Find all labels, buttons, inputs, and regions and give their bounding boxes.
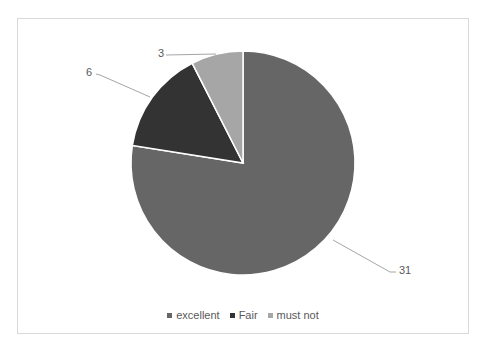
legend-item-excellent: excellent (167, 309, 219, 321)
leader-line-fair (96, 74, 150, 97)
legend-swatch-excellent (167, 313, 172, 318)
legend-swatch-fair (230, 313, 235, 318)
legend-label-must-not: must not (277, 309, 319, 321)
legend-label-fair: Fair (239, 309, 258, 321)
chart-legend: excellent Fair must not (0, 309, 486, 321)
legend-swatch-must-not (268, 313, 273, 318)
legend-item-must-not: must not (268, 309, 319, 321)
leader-line-must-not (166, 54, 216, 55)
legend-label-excellent: excellent (176, 309, 219, 321)
pie-chart: 31 6 3 (0, 0, 486, 347)
leader-line-excellent (333, 240, 396, 272)
pie-slices (131, 51, 355, 275)
legend-item-fair: Fair (230, 309, 258, 321)
data-label-must-not: 3 (158, 47, 164, 59)
data-label-excellent: 31 (399, 264, 411, 276)
data-label-fair: 6 (86, 66, 92, 78)
